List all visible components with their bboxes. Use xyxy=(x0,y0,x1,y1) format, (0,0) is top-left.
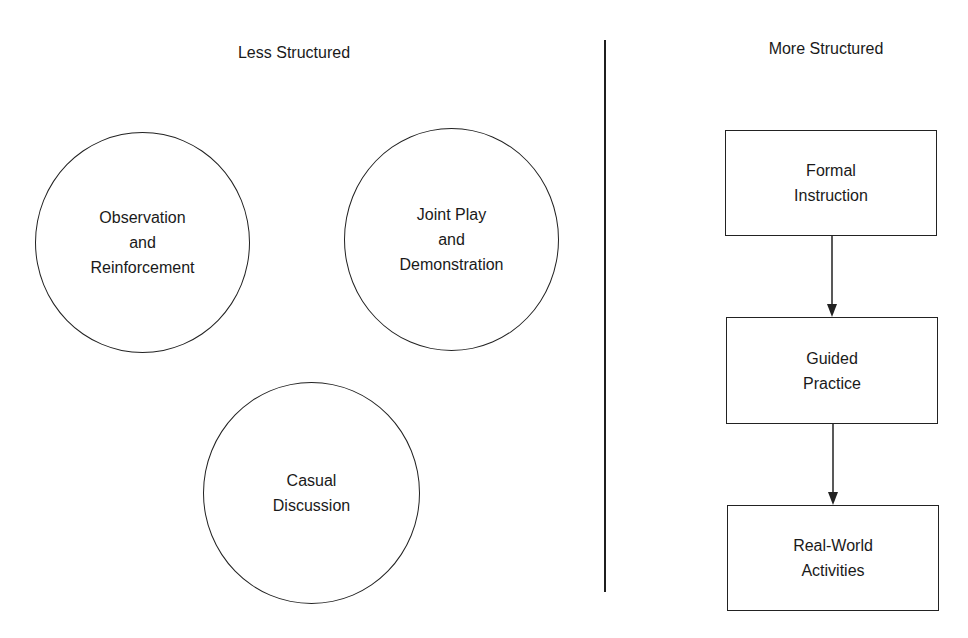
arrow-guided-to-real-world xyxy=(828,424,838,505)
arrowhead-icon xyxy=(828,492,838,505)
flow-arrows xyxy=(0,0,968,638)
arrow-formal-to-guided xyxy=(827,236,837,317)
arrowhead-icon xyxy=(827,304,837,317)
